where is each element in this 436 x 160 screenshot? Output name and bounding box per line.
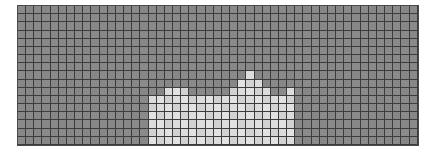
grid-cell[interactable] (124, 63, 132, 71)
grid-cell[interactable] (26, 31, 34, 39)
grid-cell[interactable] (157, 104, 165, 112)
grid-cell[interactable] (320, 31, 328, 39)
grid-cell[interactable] (263, 39, 271, 47)
grid-cell[interactable] (51, 39, 59, 47)
grid-cell[interactable] (369, 137, 377, 145)
grid-cell[interactable] (401, 104, 409, 112)
grid-cell[interactable] (287, 137, 295, 145)
grid-cell[interactable] (352, 104, 360, 112)
grid-cell[interactable] (393, 120, 401, 128)
grid-cell[interactable] (59, 129, 67, 137)
grid-cell[interactable] (401, 39, 409, 47)
grid-cell[interactable] (197, 55, 205, 63)
grid-cell[interactable] (197, 6, 205, 14)
grid-cell[interactable] (279, 39, 287, 47)
grid-cell[interactable] (18, 88, 26, 96)
grid-cell[interactable] (238, 31, 246, 39)
grid-cell[interactable] (42, 39, 50, 47)
grid-cell[interactable] (361, 112, 369, 120)
grid-cell[interactable] (173, 55, 181, 63)
grid-cell[interactable] (206, 6, 214, 14)
grid-cell[interactable] (124, 39, 132, 47)
grid-cell[interactable] (352, 112, 360, 120)
grid-cell[interactable] (83, 137, 91, 145)
grid-cell[interactable] (222, 71, 230, 79)
grid-cell[interactable] (214, 96, 222, 104)
grid-cell[interactable] (206, 96, 214, 104)
grid-cell[interactable] (149, 112, 157, 120)
grid-cell[interactable] (369, 14, 377, 22)
grid-cell[interactable] (116, 6, 124, 14)
grid-cell[interactable] (34, 137, 42, 145)
grid-cell[interactable] (238, 88, 246, 96)
grid-cell[interactable] (100, 47, 108, 55)
grid-cell[interactable] (369, 55, 377, 63)
grid-cell[interactable] (279, 96, 287, 104)
grid-cell[interactable] (214, 137, 222, 145)
grid-cell[interactable] (255, 47, 263, 55)
grid-cell[interactable] (361, 22, 369, 30)
grid-cell[interactable] (377, 31, 385, 39)
grid-cell[interactable] (197, 129, 205, 137)
grid-cell[interactable] (401, 14, 409, 22)
grid-cell[interactable] (410, 6, 418, 14)
grid-cell[interactable] (75, 96, 83, 104)
grid-cell[interactable] (410, 96, 418, 104)
grid-cell[interactable] (189, 120, 197, 128)
grid-cell[interactable] (393, 47, 401, 55)
grid-cell[interactable] (100, 112, 108, 120)
grid-cell[interactable] (116, 120, 124, 128)
grid-cell[interactable] (344, 129, 352, 137)
grid-cell[interactable] (238, 96, 246, 104)
grid-cell[interactable] (51, 14, 59, 22)
grid-cell[interactable] (401, 6, 409, 14)
grid-cell[interactable] (393, 14, 401, 22)
grid-cell[interactable] (255, 71, 263, 79)
grid-cell[interactable] (116, 129, 124, 137)
grid-cell[interactable] (149, 137, 157, 145)
grid-cell[interactable] (206, 22, 214, 30)
grid-cell[interactable] (279, 137, 287, 145)
grid-cell[interactable] (369, 71, 377, 79)
grid-cell[interactable] (320, 55, 328, 63)
grid-cell[interactable] (271, 88, 279, 96)
grid-cell[interactable] (189, 104, 197, 112)
grid-cell[interactable] (132, 31, 140, 39)
grid-cell[interactable] (303, 88, 311, 96)
grid-cell[interactable] (67, 120, 75, 128)
grid-cell[interactable] (377, 47, 385, 55)
grid-cell[interactable] (377, 129, 385, 137)
grid-cell[interactable] (83, 6, 91, 14)
grid-cell[interactable] (279, 112, 287, 120)
grid-cell[interactable] (303, 14, 311, 22)
grid-cell[interactable] (140, 112, 148, 120)
grid-cell[interactable] (116, 96, 124, 104)
grid-cell[interactable] (132, 47, 140, 55)
grid-cell[interactable] (393, 80, 401, 88)
grid-cell[interactable] (140, 22, 148, 30)
grid-cell[interactable] (165, 120, 173, 128)
grid-cell[interactable] (140, 104, 148, 112)
grid-cell[interactable] (34, 39, 42, 47)
grid-cell[interactable] (157, 63, 165, 71)
grid-cell[interactable] (83, 104, 91, 112)
grid-cell[interactable] (230, 104, 238, 112)
grid-cell[interactable] (51, 120, 59, 128)
grid-cell[interactable] (214, 47, 222, 55)
grid-cell[interactable] (410, 55, 418, 63)
grid-cell[interactable] (295, 71, 303, 79)
grid-cell[interactable] (246, 71, 254, 79)
grid-cell[interactable] (34, 88, 42, 96)
grid-cell[interactable] (59, 88, 67, 96)
grid-cell[interactable] (214, 14, 222, 22)
grid-cell[interactable] (295, 6, 303, 14)
grid-cell[interactable] (91, 104, 99, 112)
grid-cell[interactable] (303, 39, 311, 47)
grid-cell[interactable] (173, 47, 181, 55)
grid-cell[interactable] (303, 96, 311, 104)
grid-cell[interactable] (271, 96, 279, 104)
grid-cell[interactable] (377, 22, 385, 30)
grid-cell[interactable] (51, 96, 59, 104)
grid-cell[interactable] (344, 55, 352, 63)
grid-cell[interactable] (26, 14, 34, 22)
